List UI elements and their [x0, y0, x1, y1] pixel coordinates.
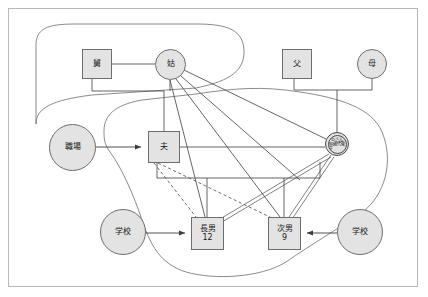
node-mother-in-law[interactable]: 姑 [155, 49, 186, 80]
node-father[interactable]: 父 [282, 49, 312, 79]
node-label: 学校 [352, 228, 368, 236]
node-label: 父 [293, 60, 301, 68]
client-age-label: 30歳代後半 [329, 142, 346, 150]
node-age: 12 [202, 234, 212, 242]
node-client-identified-person[interactable]: Dさん 30歳代後半 [328, 135, 347, 154]
rel-motherinlaw-secondson [176, 79, 280, 217]
node-age: 9 [282, 234, 287, 242]
node-father-in-law[interactable]: 舅 [82, 49, 112, 79]
link-inlaws-to-husband [92, 79, 164, 131]
weak-links-husband [154, 163, 272, 218]
node-label: 母 [368, 60, 376, 68]
node-second-son[interactable]: 次男 9 [268, 217, 301, 250]
node-husband[interactable]: 夫 [148, 131, 180, 163]
link-father-to-client [294, 79, 372, 90]
node-school-right[interactable]: 学校 [337, 209, 383, 255]
node-label: 学校 [115, 228, 131, 236]
strong-client-secondson-b [292, 157, 334, 219]
boundary-extended-family [36, 24, 244, 124]
node-mother[interactable]: 母 [357, 49, 387, 79]
node-school-left[interactable]: 学校 [100, 209, 146, 255]
rel-motherinlaw-client [184, 70, 326, 139]
node-eldest-son[interactable]: 長男 12 [191, 217, 224, 250]
node-label: 職場 [65, 143, 81, 151]
node-label: 夫 [160, 143, 168, 151]
node-label: 舅 [93, 60, 101, 68]
node-workplace[interactable]: 職場 [49, 124, 96, 171]
node-label: 姑 [167, 60, 175, 68]
strong-client-secondson-a [289, 155, 331, 217]
strong-links-client [220, 154, 334, 222]
